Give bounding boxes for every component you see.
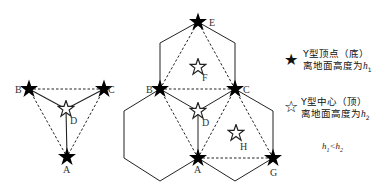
legend-vertex-text: 离地面高度为: [303, 60, 363, 71]
label-D: D: [202, 117, 209, 128]
height-condition: h1<h2: [322, 141, 343, 153]
label-D: D: [70, 115, 77, 126]
var-sub: 2: [366, 114, 370, 121]
label-B: B: [146, 84, 153, 95]
legend-center-line2: 离地面高度为h2: [301, 108, 370, 124]
var-sub: 1: [368, 66, 372, 73]
hollow-star-icon: ☆: [284, 99, 298, 115]
filled-star-icon: [58, 148, 76, 166]
label-A: A: [63, 164, 71, 175]
hollow-star-icon: [228, 124, 244, 140]
label-C: C: [108, 84, 115, 95]
legend-vertex-line2: 离地面高度为h1: [303, 60, 372, 76]
filled-star-icon: [226, 80, 244, 98]
label-E: E: [209, 17, 215, 28]
legend-center-text: 离地面高度为: [301, 108, 361, 119]
left-figure: B C D A: [15, 80, 115, 176]
label-G: G: [270, 167, 277, 178]
filled-star-icon: [151, 80, 169, 98]
filled-star-icon: ★: [284, 52, 298, 68]
cond-rhs-sub: 2: [340, 147, 343, 153]
filled-star-icon: [264, 149, 282, 167]
label-C: C: [243, 84, 250, 95]
legend-center-line1: Y型中心（顶）: [301, 96, 367, 108]
legend-vertex-line1: Y型顶点（底）: [303, 48, 369, 60]
label-A: A: [194, 164, 202, 175]
right-figure: E B C F D H A G: [124, 13, 282, 182]
label-B: B: [15, 84, 22, 95]
label-H: H: [240, 141, 247, 152]
left-y-shape: [29, 89, 104, 157]
label-F: F: [202, 72, 208, 83]
filled-star-icon: [20, 80, 38, 98]
dashed-triangles: [160, 22, 273, 158]
filled-star-icon: [189, 13, 207, 31]
